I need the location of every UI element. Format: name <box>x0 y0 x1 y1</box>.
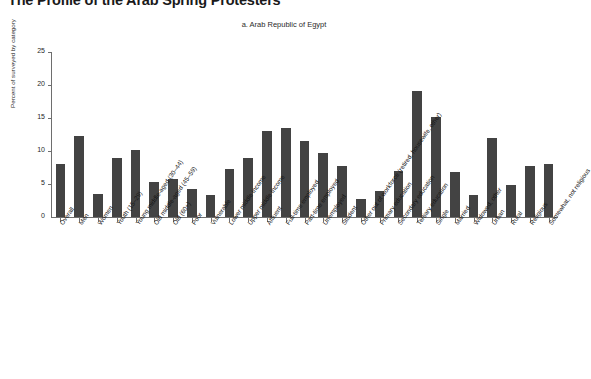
bar-slot <box>469 52 479 217</box>
bar-slot <box>450 52 460 217</box>
y-tick-label: 25 <box>37 47 45 54</box>
bar-slot <box>187 52 197 217</box>
bar-slot <box>112 52 122 217</box>
bar-slot <box>525 52 535 217</box>
panel-subtitle: a. Arab Republic of Egypt <box>0 20 568 29</box>
bar-slot <box>225 52 235 217</box>
y-tick-label: 5 <box>41 179 45 186</box>
bar-slot <box>56 52 66 217</box>
bar-slot <box>93 52 103 217</box>
bar-slot <box>337 52 347 217</box>
y-tick-label: 15 <box>37 113 45 120</box>
bar-slot <box>206 52 216 217</box>
figure-title: The Profile of the Arab Spring Protester… <box>8 0 280 8</box>
bar <box>337 166 347 217</box>
bar <box>450 172 460 217</box>
y-tick-label: 20 <box>37 80 45 87</box>
bar-slot <box>74 52 84 217</box>
y-tick-label: 10 <box>37 146 45 153</box>
bar-slot <box>281 52 291 217</box>
x-axis-labels: OverallMenWomenYouth (15–29)Young middle… <box>51 222 558 372</box>
bar-slot <box>356 52 366 217</box>
bar <box>74 136 84 217</box>
bar <box>525 166 535 217</box>
bar <box>56 164 66 217</box>
bar-slot <box>506 52 516 217</box>
bar-slot <box>544 52 554 217</box>
y-tick-label: 0 <box>41 212 45 219</box>
bar <box>281 128 291 217</box>
y-axis-title: Percent of surveyed by category <box>9 0 16 139</box>
